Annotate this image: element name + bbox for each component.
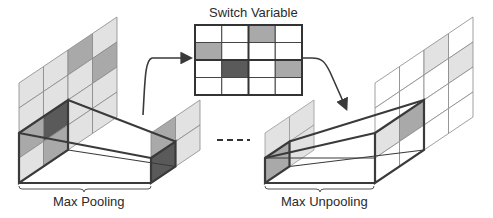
- max-pooling-unpooling-diagram: [0, 0, 493, 218]
- arrow-from-switch-icon: [302, 58, 346, 108]
- switch-cell: [275, 78, 302, 96]
- max-pooling-brace: [19, 186, 151, 192]
- switch-cell: [249, 43, 276, 61]
- switch-cell: [222, 25, 249, 43]
- max-pooling-label: Max Pooling: [53, 194, 125, 209]
- switch-cell: [249, 25, 276, 43]
- switch-variable-title: Switch Variable: [209, 5, 298, 20]
- switch-cell: [249, 78, 276, 96]
- switch-cell: [222, 60, 249, 78]
- switch-cell: [249, 60, 276, 78]
- max-unpooling-brace: [265, 186, 374, 192]
- switch-cell: [195, 43, 222, 61]
- switch-cell: [195, 78, 222, 96]
- max-unpooling-label: Max Unpooling: [281, 194, 368, 209]
- switch-cell: [275, 43, 302, 61]
- switch-cell: [275, 60, 302, 78]
- switch-cell: [222, 78, 249, 96]
- switch-cell: [195, 25, 222, 43]
- switch-cell: [222, 43, 249, 61]
- switch-variable-table: [195, 25, 302, 95]
- arrow-to-switch-icon: [143, 58, 190, 115]
- switch-cell: [195, 60, 222, 78]
- switch-cell: [275, 25, 302, 43]
